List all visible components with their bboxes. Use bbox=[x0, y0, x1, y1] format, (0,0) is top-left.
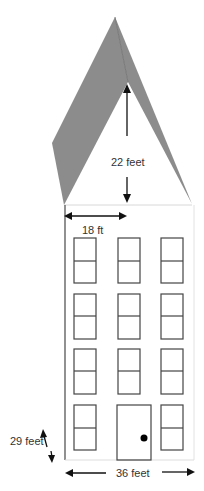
roof-left-face bbox=[52, 17, 128, 205]
roof-height-label: 22 feet bbox=[111, 156, 145, 168]
house-diagram: 22 feet 18 ft 29 feet 36 feet bbox=[0, 0, 204, 491]
door bbox=[117, 405, 151, 460]
wall-height-label: 29 feet bbox=[10, 435, 44, 447]
roof-height-arrow bbox=[123, 84, 131, 203]
total-width-label: 36 feet bbox=[116, 467, 150, 479]
window-grid bbox=[74, 238, 183, 450]
half-width-arrow bbox=[64, 212, 127, 220]
half-width-label: 18 ft bbox=[82, 224, 103, 236]
doorknob bbox=[141, 435, 148, 442]
